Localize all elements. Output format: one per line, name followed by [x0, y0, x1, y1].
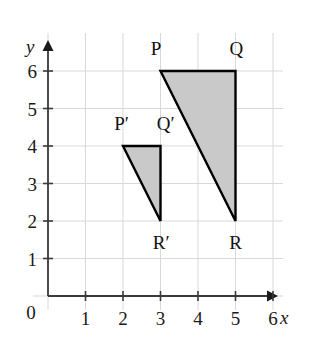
y-tick-label-3: 3: [28, 174, 38, 193]
x-tick-label-6: 6: [268, 309, 278, 328]
y-axis-label: y: [26, 37, 34, 56]
vertex-label-P: P: [151, 38, 162, 57]
coordinate-plane-figure: 0123456123456 PQRP′Q′R′ x y: [0, 0, 320, 349]
x-tick-label-4: 4: [193, 309, 203, 328]
vertex-label-Q-prime: Q′: [157, 113, 175, 132]
vertex-label-R-prime: R′: [153, 232, 170, 251]
x-tick-label-1: 1: [81, 309, 91, 328]
y-tick-label-1: 1: [28, 249, 38, 268]
x-tick-label-0: 0: [26, 303, 36, 322]
y-tick-label-5: 5: [28, 99, 38, 118]
x-tick-label-3: 3: [156, 309, 166, 328]
y-tick-label-4: 4: [28, 137, 38, 156]
x-tick-label-2: 2: [118, 309, 128, 328]
y-tick-label-6: 6: [28, 62, 38, 81]
x-tick-label-5: 5: [231, 309, 241, 328]
x-axis-label: x: [280, 308, 288, 327]
vertex-label-R: R: [229, 232, 242, 251]
vertex-label-Q: Q: [229, 38, 243, 57]
y-tick-label-2: 2: [28, 212, 38, 231]
vertex-label-P-prime: P′: [114, 113, 129, 132]
